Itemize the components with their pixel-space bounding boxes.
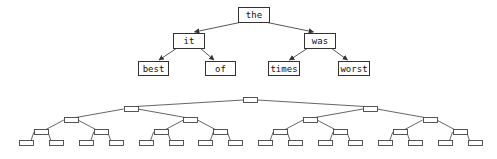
tree-leaf-node [80, 141, 94, 146]
tree-edge [166, 120, 184, 130]
edge-the-it [195, 22, 243, 32]
tree-edge [78, 120, 96, 130]
tree-leaf-node [349, 141, 363, 146]
tree-edge [390, 132, 393, 141]
node-label: best [143, 64, 165, 74]
word-node-it: it [174, 34, 205, 49]
tree-edge [76, 109, 124, 118]
edge-was-times [290, 48, 309, 60]
tree-internal-node [454, 130, 468, 135]
tree-leaf-node [259, 141, 273, 146]
tree-leaf-node [409, 141, 423, 146]
tree-edge [257, 100, 365, 107]
tree-edge [138, 109, 186, 118]
node-label: it [184, 36, 195, 46]
tree-leaf-node [170, 141, 184, 146]
tree-diagram: theitwasbestoftimesworst [0, 0, 497, 159]
tree-leaf-node [199, 141, 213, 146]
tree-edge [450, 132, 453, 141]
tree-edge [330, 132, 333, 141]
tree-leaf-node [140, 141, 154, 146]
tree-internal-node [274, 130, 288, 135]
tree-edge [151, 132, 154, 141]
tree-edge [285, 120, 303, 130]
tree-internal-node [155, 130, 169, 135]
tree-internal-node [334, 130, 348, 135]
tree-leaf-node [439, 141, 453, 146]
word-node-the: the [239, 8, 270, 23]
tree-leaf-node [110, 141, 124, 146]
tree-edge [317, 120, 335, 130]
tree-internal-node [364, 107, 378, 112]
tree-internal-node [35, 130, 49, 135]
tree-edge [377, 109, 425, 118]
edge-it-of [200, 48, 214, 60]
word-node-times: times [269, 62, 300, 76]
tree-edge [437, 120, 455, 130]
tree-internal-node [304, 118, 318, 123]
tree-internal-node [95, 130, 109, 135]
node-label: worst [340, 64, 367, 74]
tree-internal-node [125, 107, 139, 112]
node-label: was [312, 36, 328, 46]
tree-internal-node [65, 118, 79, 123]
word-tree: theitwasbestoftimesworst [139, 8, 370, 76]
tree-leaf-node [289, 141, 303, 146]
tree-leaf-node [50, 141, 64, 146]
tree-edge [210, 132, 213, 141]
word-node-best: best [139, 62, 169, 76]
tree-internal-node [184, 118, 198, 123]
tree-internal-node [214, 130, 228, 135]
edge-the-was [265, 22, 314, 32]
tree-edge [46, 120, 64, 130]
complete-binary-tree [20, 98, 483, 146]
node-label: the [246, 10, 262, 20]
tree-leaf-node [469, 141, 483, 146]
tree-internal-node [394, 130, 408, 135]
node-label: times [270, 64, 297, 74]
edge-was-worst [331, 48, 348, 60]
tree-edge [315, 109, 363, 118]
tree-leaf-node [20, 141, 34, 146]
tree-leaf-node [229, 141, 243, 146]
word-node-worst: worst [339, 62, 370, 76]
tree-edge [136, 100, 244, 107]
word-tree-nodes: theitwasbestoftimesworst [139, 8, 370, 76]
binary-tree-nodes [20, 98, 483, 146]
tree-leaf-node [319, 141, 333, 146]
tree-edge [31, 132, 34, 141]
tree-edge [270, 132, 273, 141]
tree-leaf-node [379, 141, 393, 146]
node-label: of [215, 64, 226, 74]
tree-edge [405, 120, 423, 130]
edge-it-best [159, 48, 177, 60]
tree-edge [197, 120, 215, 130]
tree-edge [91, 132, 94, 141]
word-node-of: of [206, 62, 236, 76]
tree-root-node [244, 98, 258, 103]
word-node-was: was [305, 34, 336, 49]
tree-internal-node [424, 118, 438, 123]
